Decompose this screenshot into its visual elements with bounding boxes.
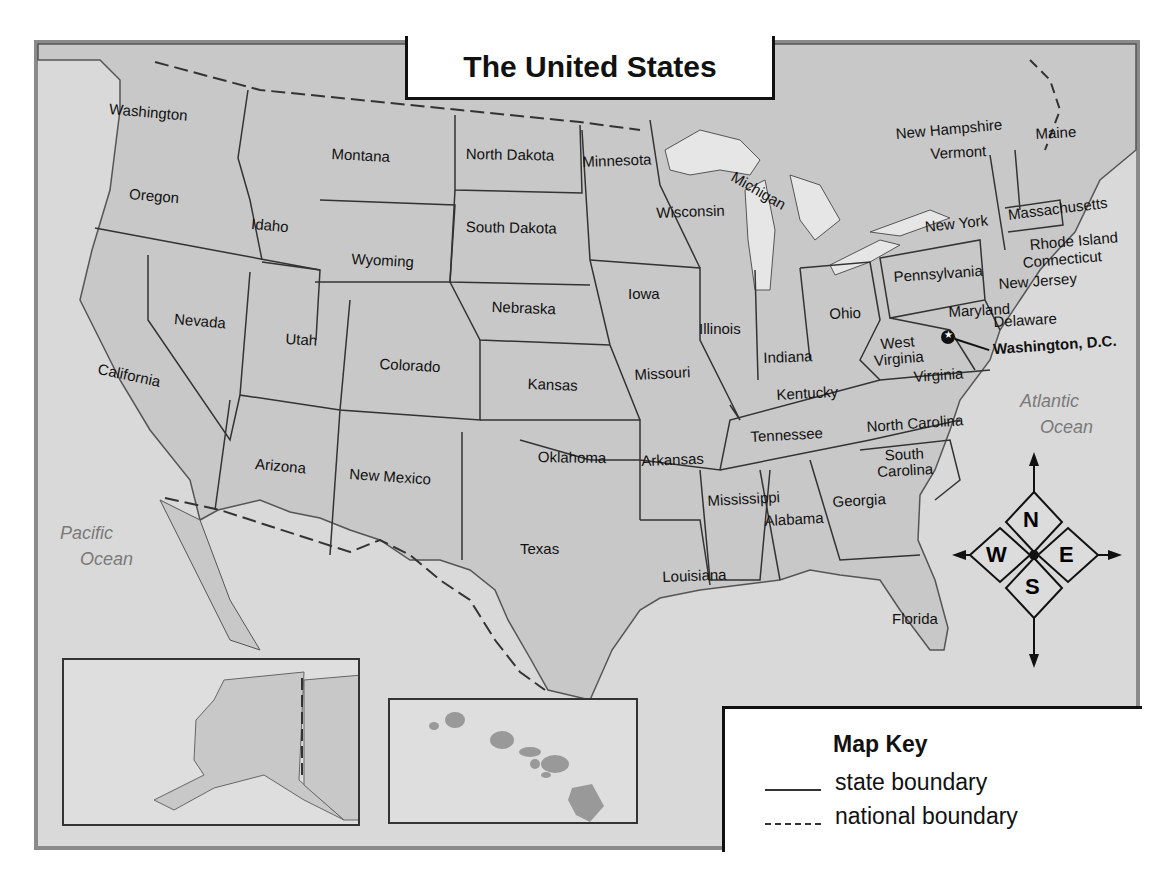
state-label-iowa: Iowa	[628, 285, 660, 302]
state-label-south-dakota: South Dakota	[466, 218, 557, 237]
state-label-missouri: Missouri	[634, 363, 691, 383]
state-label-oklahoma: Oklahoma	[538, 448, 607, 466]
solid-line-icon	[765, 789, 821, 791]
key-label: state boundary	[835, 769, 987, 796]
state-label-alabama: Alabama	[764, 509, 824, 529]
hawaii-inset	[388, 698, 638, 824]
state-label-nebraska: Nebraska	[491, 298, 556, 317]
state-label-vermont: Vermont	[930, 142, 987, 162]
state-label-montana: Montana	[331, 145, 390, 165]
state-label-maine: Maine	[1035, 123, 1077, 142]
state-label-georgia: Georgia	[832, 490, 886, 510]
state-label-louisiana: Louisiana	[662, 566, 727, 585]
compass-east: E	[1059, 542, 1074, 568]
state-label-wyoming: Wyoming	[351, 250, 414, 270]
key-item-state-boundary: state boundary	[765, 769, 987, 796]
state-label-texas: Texas	[520, 540, 559, 557]
state-label-arkansas: Arkansas	[641, 450, 704, 469]
compass-arrows	[950, 450, 1130, 670]
state-label-indiana: Indiana	[763, 347, 813, 366]
state-label-idaho: Idaho	[251, 215, 290, 235]
state-label-ohio: Ohio	[829, 304, 861, 322]
alaska-inset	[62, 658, 360, 826]
state-label-kansas: Kansas	[527, 375, 578, 394]
state-label-florida: Florida	[892, 610, 938, 627]
compass-rose: N S W E	[950, 450, 1130, 670]
map-key-title: Map Key	[833, 731, 928, 758]
dashed-line-icon	[765, 823, 821, 825]
state-label-delaware: Delaware	[993, 310, 1057, 330]
map-title: The United States	[405, 36, 775, 100]
alaska-shape	[64, 660, 360, 826]
state-label-kentucky: Kentucky	[776, 383, 839, 403]
compass-south: S	[1025, 574, 1040, 600]
compass-west: W	[986, 542, 1007, 568]
state-label-west-virginia: WestVirginia	[872, 333, 924, 369]
state-label-utah: Utah	[285, 330, 318, 349]
key-item-national-boundary: national boundary	[765, 803, 1018, 830]
state-label-north-dakota: North Dakota	[466, 145, 555, 164]
state-label-wisconsin: Wisconsin	[656, 202, 725, 221]
hawaii-islands	[390, 700, 638, 824]
key-label: national boundary	[835, 803, 1018, 830]
map-key: Map Key state boundary national boundary	[722, 706, 1142, 852]
state-label-virginia: Virginia	[913, 365, 964, 385]
state-label-illinois: Illinois	[699, 320, 741, 337]
state-label-south-carolina: SouthCarolina	[876, 445, 933, 480]
ocean-label-pacific-ocean: PacificOcean	[60, 520, 133, 572]
compass-north: N	[1023, 507, 1039, 533]
ocean-label-atlantic-ocean: AtlanticOcean	[1020, 388, 1093, 440]
state-label-minnesota: Minnesota	[582, 151, 652, 170]
state-label-colorado: Colorado	[379, 355, 441, 375]
capital-marker: ★	[941, 330, 955, 344]
star-icon: ★	[943, 329, 953, 340]
